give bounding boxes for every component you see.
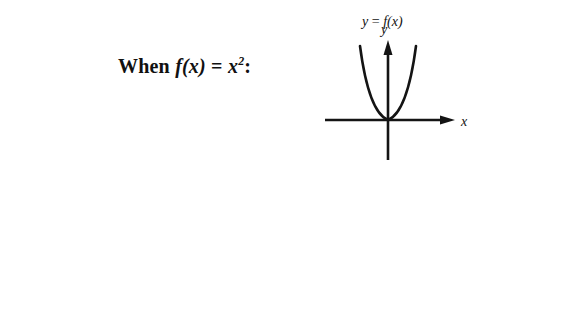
main-graph-x-axis-label: x <box>460 114 468 129</box>
heading-function-name: f <box>175 55 182 77</box>
page-heading: When f(x) = x2: <box>118 55 251 78</box>
main-graph-y-axis-arrowhead <box>384 40 393 55</box>
transformations-table: y = f(x + 1) y = f(x – 1) y = f(x) + 1 y… <box>0 170 561 311</box>
heading-function-arg: (x) <box>182 55 206 77</box>
heading-colon: : <box>244 55 251 77</box>
main-graph: x y <box>315 10 485 160</box>
main-graph-svg: x y <box>315 10 485 160</box>
heading-base: x <box>228 55 238 77</box>
main-graph-y-axis-label: y <box>379 22 388 37</box>
main-graph-x-axis-arrowhead <box>440 116 455 125</box>
heading-prefix: When <box>118 55 175 77</box>
heading-equals: = <box>206 55 228 77</box>
